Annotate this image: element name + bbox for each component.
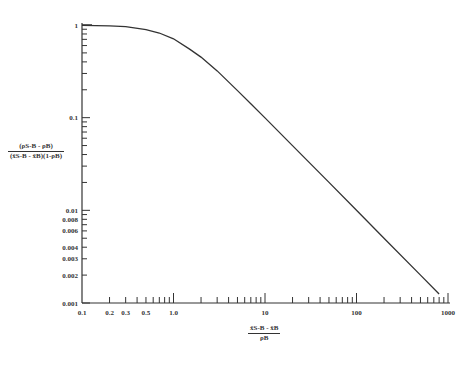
y-axis-label-numerator: (ρS-B - ρB) xyxy=(8,142,64,152)
y-axis-label-denominator: (x̄S-B - x̄B)(1-ρB) xyxy=(8,152,64,161)
x-tick-label: 1.0 xyxy=(169,309,178,317)
y-axis-label: (ρS-B - ρB) (x̄S-B - x̄B)(1-ρB) xyxy=(8,142,64,161)
y-tick-label: 0.002 xyxy=(62,272,78,280)
y-tick-label: 0.004 xyxy=(62,244,78,252)
y-axis-ticks: 10.10.010.0080.0060.0040.0030.0020.001 xyxy=(62,22,92,308)
y-tick-label: 0.01 xyxy=(66,207,79,215)
x-tick-label: 0.2 xyxy=(105,309,114,317)
x-axis-label: x̄S-B - x̄B ρB xyxy=(248,324,280,343)
y-tick-label: 0.006 xyxy=(62,227,78,235)
x-axis-label-numerator: x̄S-B - x̄B xyxy=(248,324,280,334)
x-tick-label: 10 xyxy=(262,309,270,317)
y-tick-label: 0.001 xyxy=(62,300,78,308)
log-log-chart: 10.10.010.0080.0060.0040.0030.0020.001 0… xyxy=(0,0,468,367)
x-tick-label: 0.5 xyxy=(142,309,151,317)
data-curve xyxy=(82,25,439,294)
y-tick-label: 0.1 xyxy=(69,114,78,122)
axes xyxy=(82,23,450,303)
x-tick-label: 0.3 xyxy=(121,309,130,317)
x-axis-label-denominator: ρB xyxy=(248,334,280,343)
y-tick-label: 1 xyxy=(75,22,79,30)
x-tick-label: 1000 xyxy=(441,309,456,317)
y-tick-label: 0.003 xyxy=(62,255,78,263)
x-axis-ticks: 0.10.20.30.51.0101001000 xyxy=(78,293,456,317)
x-tick-label: 100 xyxy=(351,309,362,317)
y-tick-label: 0.008 xyxy=(62,216,78,224)
x-tick-label: 0.1 xyxy=(78,309,87,317)
